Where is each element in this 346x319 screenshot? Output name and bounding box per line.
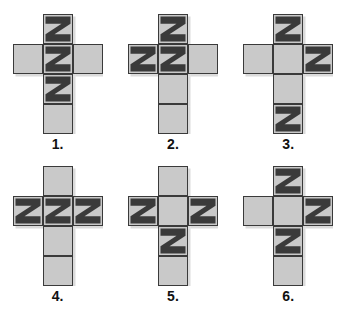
cross-net-6-caption: 6. <box>231 288 346 304</box>
cross-net-4-net <box>13 166 103 286</box>
cross-net-4-graphic <box>13 166 103 286</box>
cross-net-3-graphic <box>243 14 333 134</box>
cross-net-5-face-column-row-1 <box>158 166 188 196</box>
cross-net-6-face-column-row-4 <box>273 256 303 286</box>
puzzle-sheet: 1.2.3. 4.5.6. <box>0 0 346 319</box>
cross-net-6[interactable]: 6. <box>231 160 346 316</box>
figure-row-bottom: 4.5.6. <box>0 160 346 316</box>
cross-net-3-face-arm-left <box>243 44 273 74</box>
cross-net-6-face-arm-left <box>243 196 273 226</box>
cross-net-2-net <box>128 14 218 134</box>
cross-net-3-face-column-row-2 <box>273 44 303 74</box>
cross-net-5-graphic <box>128 166 218 286</box>
cross-net-2-face-column-row-3 <box>158 74 188 104</box>
cross-net-5[interactable]: 5. <box>115 160 230 316</box>
cross-net-1-face-arm-left <box>13 44 43 74</box>
cross-net-3-face-column-row-3 <box>273 74 303 104</box>
cross-net-2-face-arm-right <box>188 44 218 74</box>
cross-net-5-caption: 5. <box>115 288 230 304</box>
cross-net-6-graphic <box>243 166 333 286</box>
cross-net-2-caption: 2. <box>115 136 230 152</box>
cross-net-1-graphic <box>13 14 103 134</box>
cross-net-5-net <box>128 166 218 286</box>
figure-row-top: 1.2.3. <box>0 8 346 160</box>
cross-net-6-face-column-row-2 <box>273 196 303 226</box>
cross-net-2-graphic <box>128 14 218 134</box>
cross-net-4[interactable]: 4. <box>0 160 115 316</box>
cross-net-4-face-column-row-3 <box>43 226 73 256</box>
cross-net-1-face-column-row-4 <box>43 104 73 134</box>
cross-net-1-net <box>13 14 103 134</box>
cross-net-3-net <box>243 14 333 134</box>
cross-net-6-net <box>243 166 333 286</box>
cross-net-1-face-arm-right <box>73 44 103 74</box>
cross-net-2-face-column-row-4 <box>158 104 188 134</box>
cross-net-3-caption: 3. <box>231 136 346 152</box>
cross-net-4-face-column-row-1 <box>43 166 73 196</box>
cross-net-4-caption: 4. <box>0 288 115 304</box>
cross-net-3[interactable]: 3. <box>231 8 346 160</box>
cross-net-5-face-column-row-2 <box>158 196 188 226</box>
cross-net-4-face-column-row-4 <box>43 256 73 286</box>
cross-net-1-caption: 1. <box>0 136 115 152</box>
cross-net-2[interactable]: 2. <box>115 8 230 160</box>
cross-net-1[interactable]: 1. <box>0 8 115 160</box>
cross-net-5-face-column-row-4 <box>158 256 188 286</box>
